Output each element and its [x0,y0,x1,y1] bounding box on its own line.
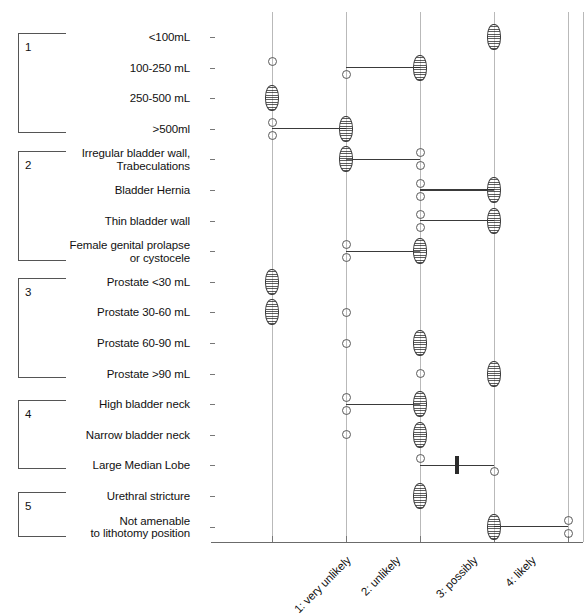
y-axis-tick-11 [210,374,215,375]
whisker-line-12 [346,404,420,405]
box-marker-1 [413,55,427,81]
gridline-x-2 [346,12,347,542]
y-axis-tick-15 [210,496,215,497]
whisker-line-16 [494,526,568,527]
whisker-line-7 [346,251,420,252]
box-marker-10 [413,330,427,356]
outlier-point-5-0 [416,179,425,188]
outlier-point-9-0 [342,308,351,317]
outlier-point-12-1 [342,406,351,415]
outlier-point-11-0 [416,369,425,378]
y-axis-tick-7 [210,251,215,252]
outlier-point-4-1 [416,161,425,170]
outlier-point-1-0 [268,57,277,66]
outlier-point-14-1 [490,467,499,476]
box-marker-2 [265,85,279,111]
box-marker-16 [487,514,501,540]
y-axis-tick-9 [210,312,215,313]
x-axis-line [211,542,583,543]
x-axis-label-4: 4: likely [503,554,538,589]
y-axis-tick-8 [210,282,215,283]
outlier-point-5-1 [416,192,425,201]
y-axis-tick-14 [210,465,215,466]
x-axis-label-3: 3: possibly [434,554,480,600]
whisker-line-1 [346,67,420,68]
outlier-point-16-1 [564,529,573,538]
outlier-point-6-0 [416,210,425,219]
y-axis-tick-13 [210,435,215,436]
box-marker-0 [487,24,501,50]
outlier-point-12-0 [342,393,351,402]
gridline-x-5 [568,12,569,542]
whisker-line-6 [420,220,494,221]
outlier-point-14-0 [416,454,425,463]
box-marker-12 [413,391,427,417]
box-marker-11 [487,361,501,387]
outlier-point-3-1 [268,131,277,140]
outlier-point-4-0 [416,148,425,157]
outlier-point-16-0 [564,516,573,525]
y-axis-tick-4 [210,159,215,160]
y-axis-tick-3 [210,129,215,130]
y-axis-tick-2 [210,98,215,99]
outlier-point-10-0 [342,339,351,348]
y-axis-tick-5 [210,190,215,191]
y-axis-tick-0 [210,37,215,38]
whisker-line-4 [346,159,420,160]
outlier-point-3-0 [268,118,277,127]
y-axis-tick-10 [210,343,215,344]
y-axis-tick-12 [210,404,215,405]
box-marker-5 [487,177,501,203]
y-axis-tick-1 [210,68,215,69]
gridline-x-4 [494,12,495,542]
outlier-point-7-1 [342,253,351,262]
box-marker-13 [413,422,427,448]
y-axis-tick-6 [210,221,215,222]
whisker-line-3 [272,128,346,129]
box-marker-9 [265,299,279,325]
box-marker-6 [487,208,501,234]
plot-area: 1: very unlikely2: unlikely3: possibly4:… [0,0,584,616]
box-marker-7 [413,238,427,264]
outlier-point-6-1 [416,223,425,232]
box-marker-15 [413,483,427,509]
whisker-line-5 [420,189,494,190]
box-marker-4 [339,146,353,172]
outlier-point-1-1 [342,70,351,79]
y-axis-tick-16 [210,527,215,528]
box-marker-8 [265,269,279,295]
x-axis-label-1: 1: very unlikely [292,554,353,615]
x-axis-label-2: 2: unlikely [359,554,403,598]
outlier-point-7-0 [342,240,351,249]
likert-dot-plot-figure: <100mL100-250 mL250-500 mL>500mlIrregula… [0,0,584,616]
median-bar-14 [455,456,459,474]
outlier-point-13-0 [342,430,351,439]
box-marker-3 [339,116,353,142]
